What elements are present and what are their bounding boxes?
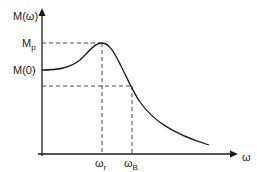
x-axis-arrow-icon	[230, 151, 238, 158]
dc-gain-label: M(0)	[13, 64, 36, 76]
resonant-frequency-label: ωr	[95, 157, 107, 172]
bandwidth-frequency-label: ωB	[124, 157, 138, 172]
peak-label: Mp	[22, 37, 36, 52]
y-axis	[39, 8, 46, 156]
magnitude-curve	[42, 43, 209, 145]
x-axis	[38, 151, 238, 158]
y-axis-arrow-icon	[39, 8, 46, 16]
x-axis-label: ω	[242, 151, 251, 163]
guide-lines	[42, 43, 132, 154]
y-axis-label: M(ω)	[13, 10, 38, 22]
frequency-response-diagram: M(ω) ω Mp M(0) ωr ωB	[0, 0, 257, 172]
